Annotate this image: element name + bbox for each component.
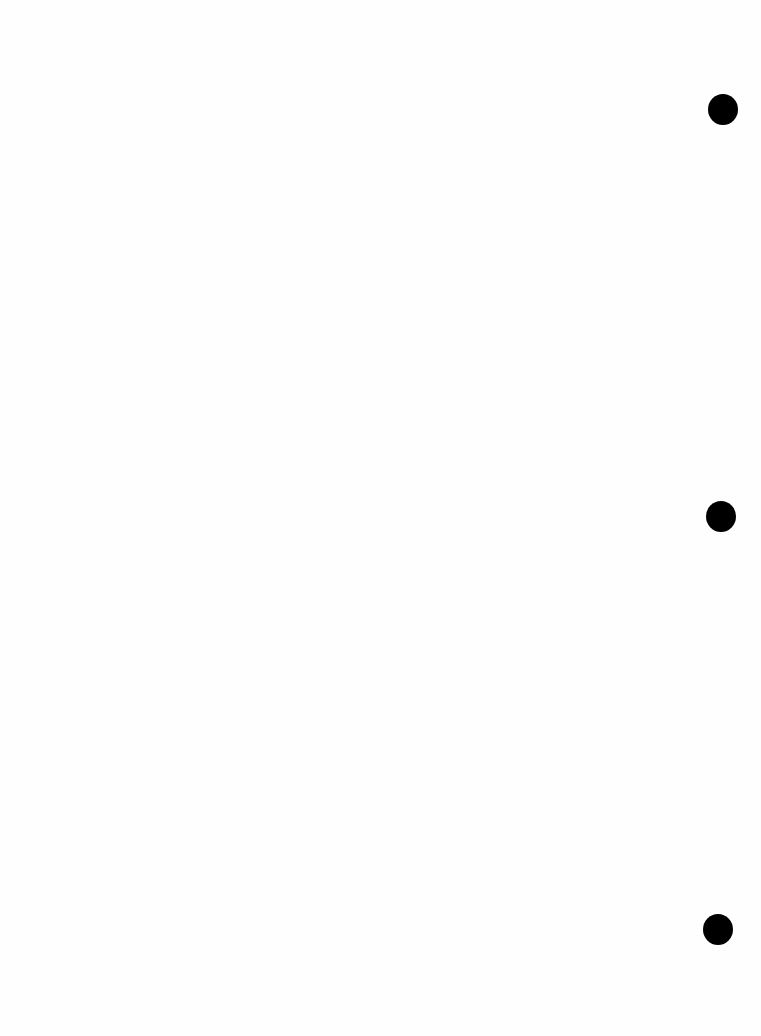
punch-hole-middle <box>706 501 736 532</box>
punch-hole-bottom <box>703 914 733 945</box>
blank-page <box>0 0 761 1036</box>
punch-hole-top <box>708 94 738 125</box>
